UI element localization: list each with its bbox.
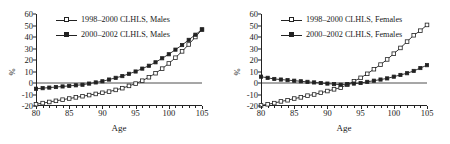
x-axis-tick-label: 80 xyxy=(32,109,41,118)
open-square-marker-icon xyxy=(392,52,396,56)
x-axis-tick-mark xyxy=(156,106,157,108)
y-axis-tick-mark xyxy=(33,48,36,49)
filled-square-marker-icon xyxy=(332,83,335,86)
filled-square-marker-icon xyxy=(134,70,137,73)
x-axis-tick-mark xyxy=(400,106,401,108)
filled-square-marker-icon xyxy=(141,67,144,70)
filled-square-marker-icon xyxy=(313,81,316,84)
open-square-marker-icon xyxy=(167,62,171,66)
filled-square-marker-icon xyxy=(339,83,342,86)
open-square-marker-icon xyxy=(147,75,151,79)
filled-square-marker-icon xyxy=(412,69,415,72)
y-axis-tick-mark xyxy=(33,25,36,26)
y-axis-tick-label: 60 xyxy=(25,10,34,19)
open-square-marker-icon xyxy=(399,46,403,50)
open-square-marker-icon xyxy=(114,88,118,92)
filled-square-marker-icon xyxy=(41,87,44,90)
x-axis-label-right: Age xyxy=(261,124,427,133)
y-axis-tick-mark xyxy=(258,14,261,15)
x-axis-tick-mark xyxy=(354,106,355,108)
x-axis-tick-mark xyxy=(175,106,176,108)
open-square-marker-icon xyxy=(412,33,416,37)
x-axis-tick-mark xyxy=(116,106,117,108)
x-axis-tick-label: 85 xyxy=(65,109,74,118)
filled-square-marker-icon xyxy=(147,64,150,67)
filled-square-marker-icon xyxy=(299,80,302,83)
x-axis-tick-label: 80 xyxy=(257,109,266,118)
filled-square-marker-icon xyxy=(154,61,157,64)
chart-panel-females: % -20-10010203040506080859095100105 Age … xyxy=(225,0,450,144)
x-axis-tick-mark xyxy=(43,106,44,108)
open-square-marker-icon xyxy=(94,92,98,96)
open-square-marker-icon xyxy=(419,29,423,33)
y-axis-tick-label: 20 xyxy=(250,56,259,65)
x-axis-tick-mark xyxy=(381,106,382,108)
x-axis-tick-label: 95 xyxy=(356,109,365,118)
open-square-marker-icon xyxy=(54,99,58,103)
filled-square-marker-icon xyxy=(425,64,428,67)
x-axis-tick-label: 90 xyxy=(323,109,332,118)
filled-square-marker-icon xyxy=(405,72,408,75)
open-square-marker-icon xyxy=(101,91,105,95)
filled-square-marker-icon xyxy=(94,81,97,84)
legend-item-label: 1998–2000 CLHLS, Females xyxy=(306,16,402,24)
open-square-marker-icon xyxy=(121,86,125,90)
filled-square-marker-icon xyxy=(419,66,422,69)
x-axis-tick-mark xyxy=(76,106,77,108)
y-axis-tick-label: 10 xyxy=(250,67,259,76)
legend-females: 1998–2000 CLHLS, Females 2000–2002 CLHLS… xyxy=(281,16,402,46)
x-axis-tick-mark xyxy=(314,106,315,108)
x-axis-tick-mark xyxy=(274,106,275,108)
x-axis-tick-mark xyxy=(347,106,348,108)
legend-item-label: 2000–2002 CLHLS, Males xyxy=(81,31,170,39)
open-square-marker-icon xyxy=(312,93,316,97)
x-axis-tick-mark xyxy=(189,106,190,108)
y-axis-tick-label: 40 xyxy=(25,33,34,42)
filled-square-marker-icon xyxy=(293,79,296,82)
legend-males: 1998–2000 CLHLS, Males 2000–2002 CLHLS, … xyxy=(56,16,170,46)
filled-square-marker-icon xyxy=(61,85,64,88)
filled-square-marker-icon xyxy=(379,78,382,81)
y-axis-tick-mark xyxy=(33,83,36,84)
open-square-marker-icon xyxy=(372,67,376,71)
x-axis-tick-mark xyxy=(49,106,50,108)
open-square-marker-icon xyxy=(107,90,111,94)
filled-square-marker-icon xyxy=(273,77,276,80)
open-square-marker-icon xyxy=(87,93,91,97)
open-square-marker-icon xyxy=(67,97,71,101)
x-axis-tick-label: 100 xyxy=(162,109,175,118)
filled-square-marker-icon xyxy=(127,72,130,75)
x-axis-tick-mark xyxy=(268,106,269,108)
open-square-marker-icon xyxy=(154,71,158,75)
open-square-marker-icon xyxy=(306,94,310,98)
open-square-marker-icon xyxy=(281,16,302,24)
filled-square-marker-icon xyxy=(366,80,369,83)
open-square-marker-icon xyxy=(292,97,296,101)
x-axis-tick-label: 100 xyxy=(387,109,400,118)
open-square-marker-icon xyxy=(47,100,51,104)
y-axis-tick-label: 10 xyxy=(25,67,34,76)
x-axis-tick-mark xyxy=(182,106,183,108)
filled-square-marker-icon xyxy=(180,43,183,46)
legend-item: 1998–2000 CLHLS, Females xyxy=(281,16,402,24)
y-axis-label-left: % xyxy=(8,68,17,75)
legend-item-label: 2000–2002 CLHLS, Females xyxy=(306,31,402,39)
filled-square-marker-icon xyxy=(48,86,51,89)
y-axis-tick-mark xyxy=(258,83,261,84)
x-axis-tick-mark xyxy=(288,106,289,108)
x-axis-tick-mark xyxy=(129,106,130,108)
y-axis-tick-mark xyxy=(33,71,36,72)
filled-square-marker-icon xyxy=(306,80,309,83)
open-square-marker-icon xyxy=(326,89,330,93)
x-axis-tick-label: 95 xyxy=(131,109,140,118)
y-axis-tick-mark xyxy=(33,60,36,61)
x-axis-tick-label: 105 xyxy=(196,109,209,118)
y-axis-tick-label: -10 xyxy=(22,90,33,99)
x-axis-tick-mark xyxy=(374,106,375,108)
filled-square-marker-icon xyxy=(386,77,389,80)
open-square-marker-icon xyxy=(359,76,363,80)
y-axis-tick-label: 30 xyxy=(25,44,34,53)
filled-square-marker-icon xyxy=(167,53,170,56)
legend-item: 2000–2002 CLHLS, Males xyxy=(56,31,170,39)
filled-square-marker-icon xyxy=(34,87,37,90)
